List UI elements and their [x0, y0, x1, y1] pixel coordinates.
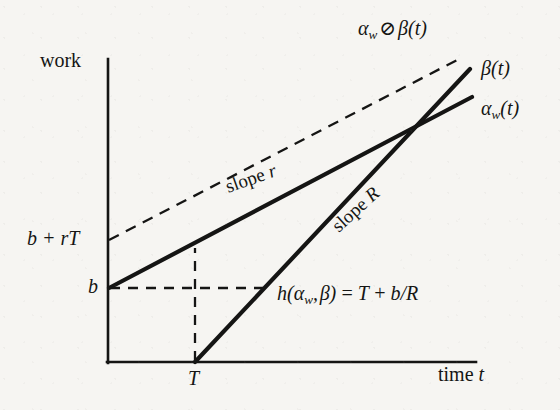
x-tick-label-T: T [188, 368, 199, 388]
horizontal-distance-label: h(αw, β) = T + b/R [277, 283, 418, 306]
convolution-curve-label: αw⊘β(t) [358, 18, 427, 41]
convolution-line-dashed [109, 58, 461, 240]
work-vs-time-diagram: work time t αw⊘β(t) β(t) αw(t) b + rT b … [0, 0, 560, 410]
y-tick-label-b: b [88, 276, 98, 296]
beta-curve-label: β(t) [481, 58, 510, 78]
plot-canvas [0, 0, 560, 410]
y-tick-label-b-plus-rT: b + rT [27, 228, 79, 248]
x-axis-label: time t [438, 364, 484, 384]
y-axis-label: work [40, 50, 81, 70]
alpha-w-curve-label: αw(t) [481, 98, 519, 121]
